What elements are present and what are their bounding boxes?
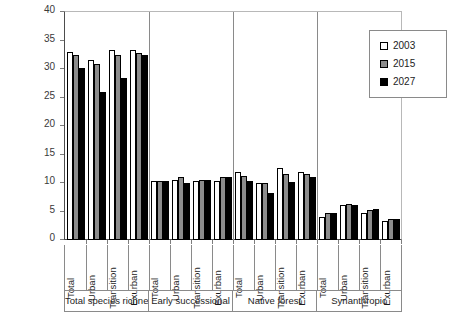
legend-item: 2027: [370, 73, 446, 91]
category-label-cell: Total: [318, 245, 339, 290]
category-label-cell: Transition: [192, 245, 213, 290]
bar-2027: [121, 78, 127, 240]
legend-swatch-icon: [380, 78, 388, 86]
group-separator: [149, 12, 150, 240]
category-label-cell: Total: [66, 245, 87, 290]
category-label-cell: Exurban: [297, 245, 318, 290]
bar-2027: [79, 68, 85, 240]
bar-2027: [205, 180, 211, 240]
y-axis-tick-label: 5: [49, 204, 55, 216]
category-label-cell: Urban: [171, 245, 192, 290]
x-axis-tick-mark: [233, 240, 234, 244]
group-separator: [233, 12, 234, 240]
group-separator: [317, 12, 318, 240]
bar-cluster: [86, 12, 107, 240]
bar-cluster: [65, 12, 86, 240]
y-axis-tick-label: 30: [44, 61, 55, 73]
y-axis-tick-label: 40: [44, 4, 55, 16]
bar-2027: [100, 92, 106, 240]
bar-2027: [268, 193, 274, 240]
x-axis-tick-mark: [86, 240, 87, 244]
category-label-row: TotalUrbanTransitionExurbanTotalUrbanTra…: [64, 245, 402, 290]
bar-cluster: [212, 12, 233, 240]
bar-2027: [394, 219, 400, 240]
bar-cluster: [338, 12, 359, 240]
legend-item: 2003: [370, 37, 446, 55]
y-axis-tick-label: 15: [44, 147, 55, 159]
x-axis-tick-mark: [296, 240, 297, 244]
bar-2027: [247, 181, 253, 240]
legend-swatch-icon: [380, 42, 388, 50]
bar-2027: [331, 213, 337, 240]
bar-2027: [373, 209, 379, 240]
category-label-cell: Exurban: [129, 245, 150, 290]
legend-item: 2015: [370, 55, 446, 73]
category-label-cell: Total: [234, 245, 255, 290]
bar-2027: [184, 183, 190, 240]
category-label-cell: Exurban: [213, 245, 234, 290]
category-label-cell: Transition: [276, 245, 297, 290]
x-axis-tick-mark: [212, 240, 213, 244]
group-label-row: Total species richnessEarly successional…: [64, 290, 402, 312]
x-axis-tick-mark: [275, 240, 276, 244]
x-axis-tick-mark: [317, 240, 318, 244]
x-axis-tick-mark: [254, 240, 255, 244]
group-label: Total species richness: [65, 291, 149, 311]
bar-cluster: [149, 12, 170, 240]
bar-cluster: [233, 12, 254, 240]
bar-cluster: [128, 12, 149, 240]
x-axis-tick-mark: [338, 240, 339, 244]
x-axis-tick-mark: [191, 240, 192, 244]
legend-label: 2027: [393, 76, 415, 88]
x-axis-tick-mark: [359, 240, 360, 244]
legend-label: 2003: [393, 40, 415, 52]
bar-2027: [289, 182, 295, 240]
chart-legend: 200320152027: [369, 30, 447, 98]
bar-cluster: [191, 12, 212, 240]
y-axis-tick-label: 20: [44, 118, 55, 130]
bar-cluster: [317, 12, 338, 240]
bar-cluster: [254, 12, 275, 240]
y-axis-tick-label: 0: [49, 232, 55, 244]
group-label: Native forest: [233, 291, 317, 311]
x-axis-tick-mark: [170, 240, 171, 244]
legend-label: 2015: [393, 58, 415, 70]
category-label-cell: Urban: [339, 245, 360, 290]
bar-2027: [352, 205, 358, 240]
bar-cluster: [107, 12, 128, 240]
category-label-cell: Transition: [108, 245, 129, 290]
y-axis-tick-label: 10: [44, 175, 55, 187]
category-label-cell: Urban: [87, 245, 108, 290]
x-axis-tick-mark: [380, 240, 381, 244]
bar-2027: [226, 177, 232, 240]
x-axis-tick-mark: [401, 240, 402, 244]
bar-cluster: [275, 12, 296, 240]
category-label-cell: Total: [150, 245, 171, 290]
x-axis-tick-mark: [149, 240, 150, 244]
bar-cluster: [296, 12, 317, 240]
bar-2027: [163, 181, 169, 240]
legend-swatch-icon: [380, 60, 388, 68]
bar-2027: [310, 177, 316, 240]
x-axis-tick-mark: [107, 240, 108, 244]
category-label-cell: Exurban: [381, 245, 402, 290]
y-axis-tick-label: 25: [44, 90, 55, 102]
y-axis-tick-label: 35: [44, 33, 55, 45]
category-label-cell: Transition: [360, 245, 381, 290]
x-axis-tick-mark: [128, 240, 129, 244]
category-label-cell: Urban: [255, 245, 276, 290]
bar-2027: [142, 55, 148, 240]
group-label: Synanthropic: [317, 291, 401, 311]
group-label: Early successional: [149, 291, 233, 311]
bar-cluster: [170, 12, 191, 240]
y-axis: 4035302520151050: [0, 11, 64, 240]
bar-chart: 4035302520151050 TotalUrbanTransitionExu…: [0, 0, 474, 320]
